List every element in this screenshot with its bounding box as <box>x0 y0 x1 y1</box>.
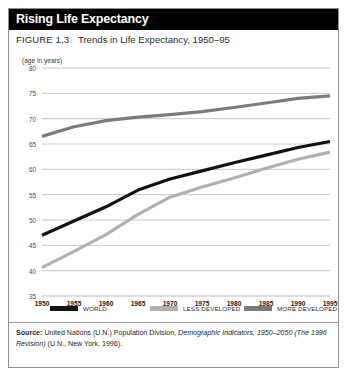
legend-item-less-developed: LESS DEVELOPED <box>150 305 240 312</box>
legend-label: WORLD <box>83 305 107 312</box>
y-tick-label: 50 <box>20 217 36 224</box>
legend-swatch <box>244 306 272 311</box>
y-tick-label: 55 <box>20 191 36 198</box>
figure-title: Rising Life Expectancy <box>16 12 148 26</box>
y-tick-label: 60 <box>20 166 36 173</box>
gridlines <box>42 68 330 296</box>
chart-legend: WORLDLESS DEVELOPEDMORE DEVELOPED <box>42 305 330 317</box>
source-text-part-1: United Nations (U.N.) Population Divisio… <box>42 329 178 337</box>
source-divider <box>9 322 338 323</box>
legend-swatch <box>150 306 178 311</box>
y-tick-label: 80 <box>20 65 36 72</box>
plot-area: 35404550556065707580 1950195519601965197… <box>42 68 330 296</box>
y-tick-label: 35 <box>20 293 36 300</box>
y-tick-label: 75 <box>20 90 36 97</box>
series-line-more-developed <box>42 96 330 137</box>
source-text-part-2: (U.N., New York, 1996). <box>46 340 123 348</box>
source-note: Source: United Nations (U.N.) Population… <box>16 328 328 349</box>
series-line-world <box>42 141 330 235</box>
figure-number-label: FIGURE 1.3 <box>16 34 69 45</box>
y-tick-label: 65 <box>20 141 36 148</box>
line-chart-svg <box>42 68 330 296</box>
axis-unit-caption: (age in years) <box>22 57 62 64</box>
figure-caption-text: Trends in Life Expectancy, 1950–95 <box>78 34 230 45</box>
legend-label: MORE DEVELOPED <box>277 305 337 312</box>
figure-card: Rising Life Expectancy FIGURE 1.3 Trends… <box>8 8 339 368</box>
source-prefix: Source: <box>16 329 42 337</box>
series-lines <box>42 96 330 268</box>
legend-item-more-developed: MORE DEVELOPED <box>244 305 337 312</box>
y-tick-label: 70 <box>20 115 36 122</box>
legend-swatch <box>50 306 78 311</box>
legend-item-world: WORLD <box>50 305 107 312</box>
y-tick-label: 45 <box>20 242 36 249</box>
y-tick-label: 40 <box>20 267 36 274</box>
figure-title-bar: Rising Life Expectancy <box>9 9 338 30</box>
legend-label: LESS DEVELOPED <box>183 305 240 312</box>
figure-subtitle: FIGURE 1.3 Trends in Life Expectancy, 19… <box>16 34 230 45</box>
